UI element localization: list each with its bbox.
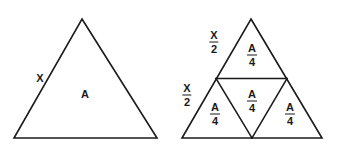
fraction-a-over-4-bottom-left: A 4: [210, 102, 220, 127]
center-sub-triangle-area-label: A 4: [247, 85, 257, 114]
bottom-left-sub-triangle-area-label: A 4: [210, 98, 220, 127]
fraction-denominator: 4: [211, 115, 219, 127]
upper-left-side-length-label: X 2: [209, 26, 218, 55]
right-subdivided-triangle: [182, 19, 322, 138]
fraction-numerator: A: [210, 102, 220, 114]
lower-left-side-length-label: X 2: [182, 79, 191, 108]
midsegment-right-diagonal: [252, 79, 287, 139]
whole-triangle-side-label: X: [36, 73, 44, 84]
fraction-numerator: X: [209, 30, 218, 42]
fraction-numerator: X: [182, 83, 191, 95]
fraction-denominator: 4: [248, 102, 256, 114]
fraction-denominator: 4: [286, 115, 294, 127]
fraction-denominator: 2: [183, 96, 191, 108]
fraction-a-over-4-center: A 4: [247, 89, 257, 114]
geometry-canvas: [0, 0, 339, 152]
whole-triangle-area-label: A: [81, 89, 89, 100]
fraction-numerator: A: [247, 89, 257, 101]
fraction-denominator: 4: [248, 56, 256, 68]
bottom-right-sub-triangle-area-label: A 4: [285, 98, 295, 127]
fraction-x-over-2-lower: X 2: [182, 83, 191, 108]
fraction-a-over-4-bottom-right: A 4: [285, 102, 295, 127]
fraction-denominator: 2: [210, 43, 218, 55]
geometry-diagram: X A X 2 X 2 A 4 A 4 A: [0, 0, 339, 152]
fraction-numerator: A: [285, 102, 295, 114]
fraction-numerator: A: [247, 43, 257, 55]
top-sub-triangle-area-label: A 4: [247, 39, 257, 68]
fraction-x-over-2-upper: X 2: [209, 30, 218, 55]
fraction-a-over-4-top: A 4: [247, 43, 257, 68]
